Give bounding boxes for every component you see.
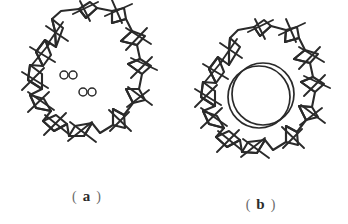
figure-panel-a: (a) — [0, 0, 174, 224]
caption-close-paren: ) — [271, 197, 277, 212]
tooth-block — [30, 95, 51, 111]
cogwheel-outline-b — [195, 19, 330, 158]
cogwheel-outline-a — [22, 0, 157, 142]
cogwheel-drawing-a — [0, 0, 174, 190]
hatch-cross — [126, 28, 151, 50]
bore-hole — [79, 88, 87, 96]
hatch-cross — [304, 75, 330, 96]
bore-hole — [88, 88, 96, 96]
tooth-block — [203, 111, 224, 128]
figure-caption-a: (a) — [0, 188, 174, 205]
bore-hole — [69, 71, 77, 79]
caption-close-paren: ) — [96, 189, 102, 204]
bore-circle-inner — [232, 63, 294, 125]
figure-panel-b: (b) — [174, 0, 348, 224]
figure-caption-b: (b) — [174, 196, 348, 213]
central-bore-b — [228, 63, 294, 128]
caption-letter: a — [78, 188, 97, 204]
hatch-cross — [195, 85, 221, 107]
bore-hole — [60, 71, 68, 79]
hatch-cross — [22, 68, 48, 90]
caption-open-paren: ( — [72, 189, 78, 204]
hatch-cross — [279, 19, 305, 42]
hatch-cross — [105, 0, 132, 23]
figure-sheet: (a) — [0, 0, 348, 224]
hatch-cross — [131, 57, 157, 78]
caption-letter: b — [251, 196, 270, 212]
cogwheel-drawing-b — [174, 0, 348, 190]
small-bore-holes-a — [60, 71, 96, 96]
